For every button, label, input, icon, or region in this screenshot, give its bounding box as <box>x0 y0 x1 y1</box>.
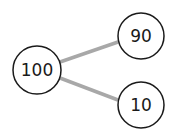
part-node-1-label: 90 <box>130 26 152 46</box>
part-node-1: 90 <box>118 13 164 59</box>
part-node-2: 10 <box>118 82 164 128</box>
part-node-2-label: 10 <box>130 95 152 115</box>
whole-node-label: 100 <box>21 60 53 80</box>
edge-whole-to-part-2 <box>60 78 118 100</box>
edge-whole-to-part-1 <box>60 42 118 62</box>
whole-node: 100 <box>13 46 61 94</box>
number-bond-diagram: 100 90 10 <box>0 0 179 137</box>
